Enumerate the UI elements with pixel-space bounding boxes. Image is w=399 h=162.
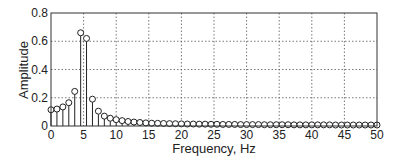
data-point	[72, 88, 78, 126]
data-point	[137, 119, 143, 126]
x-tick-label: 0	[48, 128, 55, 142]
x-tick-labels: 05101520253035404550	[48, 128, 384, 142]
x-tick-label: 35	[273, 128, 287, 142]
x-tick-label: 10	[110, 128, 124, 142]
data-point	[261, 122, 267, 128]
data-point	[297, 122, 303, 128]
y-tick-label: 0.6	[31, 34, 48, 48]
data-point	[232, 121, 238, 127]
data-point	[131, 119, 137, 126]
data-point	[66, 100, 72, 126]
data-point	[238, 122, 244, 128]
x-tick-label: 30	[240, 128, 254, 142]
data-point	[155, 120, 161, 126]
data-point	[101, 113, 107, 126]
y-tick-labels: 00.20.40.60.8	[31, 6, 48, 133]
data-point	[84, 35, 90, 126]
data-point	[291, 122, 297, 128]
data-point	[267, 122, 273, 128]
x-axis-label: Frequency, Hz	[172, 141, 256, 156]
data-point	[149, 120, 155, 126]
x-tick-label: 5	[80, 128, 87, 142]
data-point	[315, 122, 321, 128]
y-tick-label: 0.2	[31, 91, 48, 105]
x-tick-label: 50	[370, 128, 384, 142]
data-point	[113, 117, 119, 126]
data-point	[273, 122, 279, 128]
data-point	[125, 118, 131, 126]
data-point	[78, 30, 84, 126]
data-point	[285, 122, 291, 128]
data-point	[279, 122, 285, 128]
data-point	[119, 118, 125, 126]
data-point	[303, 122, 309, 128]
data-point	[255, 122, 261, 128]
y-tick-label: 0.8	[31, 6, 48, 20]
data-point	[107, 115, 113, 126]
data-point	[362, 122, 368, 128]
data-point	[356, 122, 362, 128]
y-tick-label: 0.4	[31, 63, 48, 77]
data-point	[321, 122, 327, 128]
x-tick-label: 45	[338, 128, 352, 142]
y-tick-label: 0	[41, 119, 48, 133]
data-point	[60, 104, 66, 126]
y-axis-label: Amplitude	[16, 41, 31, 99]
x-tick-label: 20	[175, 128, 189, 142]
x-tick-label: 15	[142, 128, 156, 142]
data-point	[309, 122, 315, 128]
data-point	[54, 106, 60, 126]
data-point	[226, 121, 232, 127]
data-point	[220, 121, 226, 127]
stem-chart: 05101520253035404550 00.20.40.60.8 Frequ…	[0, 0, 399, 162]
data-point	[350, 122, 356, 128]
data-point	[327, 122, 333, 128]
data-point	[95, 108, 101, 126]
data-point	[143, 120, 149, 126]
x-tick-label: 25	[207, 128, 221, 142]
data-point	[244, 122, 250, 128]
x-tick-label: 40	[305, 128, 319, 142]
data-point	[250, 122, 256, 128]
data-point	[89, 96, 95, 126]
